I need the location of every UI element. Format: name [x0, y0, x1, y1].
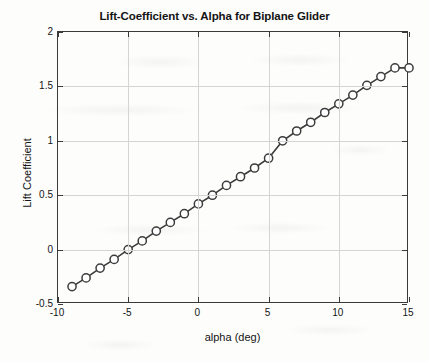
y-axis-tick-label: 0.5: [9, 189, 53, 200]
x-axis-tick-label: -5: [123, 307, 132, 318]
data-point-marker: [250, 164, 258, 172]
data-point-marker: [321, 108, 329, 116]
x-axis-tick-top: [198, 32, 199, 37]
x-axis-tick: [128, 297, 129, 302]
data-point-marker: [307, 118, 315, 126]
x-axis-tick-label: 0: [195, 307, 201, 318]
y-axis-tick: [58, 304, 63, 305]
x-axis-tick: [339, 297, 340, 302]
x-axis-tick: [58, 297, 59, 302]
gridline-horizontal: [58, 250, 407, 251]
y-axis-label: Lift Coefficient: [21, 103, 33, 243]
chart-title: Lift-Coefficient vs. Alpha for Biplane G…: [0, 10, 429, 22]
x-axis-tick: [269, 297, 270, 302]
x-axis-tick: [198, 297, 199, 302]
data-point-marker: [377, 73, 385, 81]
y-axis-tick-label: 0: [9, 243, 53, 254]
y-axis-tick-label: 2: [9, 26, 53, 37]
y-axis-tick-label: -0.5: [9, 298, 53, 309]
y-axis-tick-right: [402, 250, 407, 251]
y-axis-tick-label: 1.5: [9, 80, 53, 91]
x-axis-label: alpha (deg): [57, 331, 408, 343]
plot-area: [57, 31, 408, 303]
data-point-marker: [236, 173, 244, 181]
data-point-marker: [166, 218, 174, 226]
data-point-marker: [68, 282, 76, 290]
y-axis-tick: [58, 141, 63, 142]
data-point-marker: [152, 227, 160, 235]
y-axis-tick-right: [402, 141, 407, 142]
chart-figure: Lift-Coefficient vs. Alpha for Biplane G…: [0, 0, 429, 362]
data-series-plot: [58, 32, 409, 304]
data-point-marker: [138, 237, 146, 245]
y-axis-tick: [58, 86, 63, 87]
y-axis-tick: [58, 32, 63, 33]
gridline-vertical: [339, 32, 340, 302]
y-axis-tick-right: [402, 32, 407, 33]
gridline-horizontal: [58, 141, 407, 142]
data-point-marker: [293, 127, 301, 135]
x-axis-tick-top: [409, 32, 410, 37]
data-point-marker: [405, 64, 413, 72]
data-point-marker: [391, 64, 399, 72]
y-axis-tick: [58, 195, 63, 196]
x-axis-tick-label: 10: [332, 307, 343, 318]
x-axis-tick-label: 15: [402, 307, 413, 318]
data-point-marker: [349, 91, 357, 99]
data-point-marker: [363, 81, 371, 89]
data-point-marker: [180, 210, 188, 218]
gridline-vertical: [269, 32, 270, 302]
gridline-vertical: [198, 32, 199, 302]
gridline-vertical: [128, 32, 129, 302]
x-axis-tick-label: -10: [50, 307, 64, 318]
data-point-marker: [222, 181, 230, 189]
y-axis-tick-right: [402, 195, 407, 196]
gridline-horizontal: [58, 86, 407, 87]
y-axis-tick-label: 1: [9, 134, 53, 145]
x-axis-tick-top: [128, 32, 129, 37]
x-axis-tick-top: [269, 32, 270, 37]
y-axis-tick-right: [402, 86, 407, 87]
x-axis-tick: [409, 297, 410, 302]
y-axis-tick: [58, 250, 63, 251]
x-axis-tick-label: 5: [265, 307, 271, 318]
data-point-marker: [110, 255, 118, 263]
gridline-horizontal: [58, 195, 407, 196]
x-axis-tick-top: [339, 32, 340, 37]
data-point-marker: [82, 274, 90, 282]
y-axis-tick-right: [402, 304, 407, 305]
data-point-marker: [96, 264, 104, 272]
